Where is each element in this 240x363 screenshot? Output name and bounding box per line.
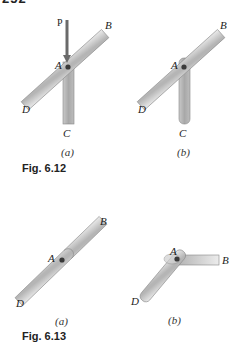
label-p: P [57, 18, 63, 28]
label-d: D [16, 298, 24, 309]
fig-6-13b-mechanism [138, 248, 219, 304]
pin-a [65, 64, 70, 69]
label-a: A [55, 60, 62, 71]
label-c: C [179, 128, 186, 139]
pin-a [174, 256, 179, 261]
label-b: B [105, 20, 112, 31]
figure-caption-6-12: Fig. 6.12 [22, 163, 66, 174]
label-a: A [171, 60, 178, 71]
fig-6-12a-mechanism [21, 20, 109, 124]
member-ad [138, 248, 188, 304]
label-c: C [63, 128, 70, 139]
label-d: D [22, 104, 30, 115]
fig-6-12b-mechanism [137, 29, 225, 124]
label-d: D [131, 296, 139, 307]
label-d: D [138, 104, 146, 115]
label-a: A [48, 253, 55, 264]
mechanism-figures [0, 0, 240, 363]
sublabel-a: (a) [61, 147, 74, 158]
label-b: B [220, 20, 227, 31]
label-b: B [222, 255, 229, 266]
sublabel-a: (a) [55, 316, 68, 327]
label-b: B [100, 216, 107, 227]
fig-6-13a-mechanism [15, 216, 107, 305]
sublabel-b: (b) [168, 315, 181, 326]
label-a: A [170, 246, 177, 257]
figure-caption-6-13: Fig. 6.13 [22, 331, 66, 342]
pin-a [59, 257, 64, 262]
pin-a [181, 64, 186, 69]
sublabel-b: (b) [177, 147, 190, 158]
